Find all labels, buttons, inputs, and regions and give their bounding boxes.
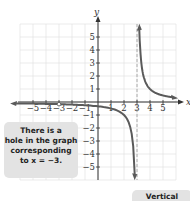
hole-callout-line: There is a [4,126,78,136]
x-tick-label: 2 [121,103,126,113]
x-axis-arrow [178,100,184,105]
hole-callout-line: corresponding [4,146,78,156]
y-tick-label: −3 [82,136,95,146]
y-tick-label: 4 [90,45,95,55]
hole-callout-line: to x = −3. [4,156,78,166]
hole-point [57,102,61,106]
curve-arrow-left [10,101,17,106]
curve-arrow-right [171,95,178,100]
y-tick-label: 3 [90,58,95,68]
x-tick-label: 5 [160,103,165,113]
y-tick-label: 5 [90,32,95,42]
y-tick-label: −1 [82,110,95,120]
y-tick-label: 1 [90,84,95,94]
x-tick-label: 4 [147,103,152,113]
y-axis-label: y [93,7,100,17]
x-tick-label: 3 [134,103,139,113]
y-tick-label: 2 [90,71,95,81]
y-tick-label: −2 [82,123,95,133]
x-axis-label: x [186,97,190,107]
curve-arrow-down [132,173,137,180]
y-tick-label: −5 [82,162,95,172]
hole-callout-line: hole in the graph [4,136,78,146]
hole-callout: There is a hole in the graph correspondi… [4,122,78,178]
curve-right-branch [139,30,172,97]
curve-arrow-up [137,24,142,31]
asymptote-callout: Vertical [132,190,190,201]
y-tick-label: −4 [82,149,95,159]
asymptote-callout-text: Vertical [146,192,178,201]
